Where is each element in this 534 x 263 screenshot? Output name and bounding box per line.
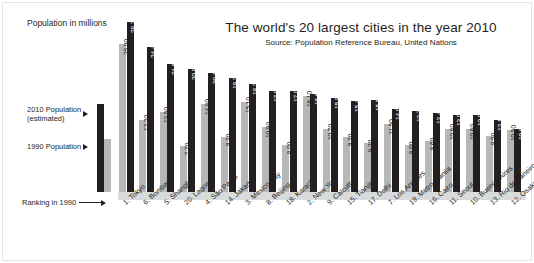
bar-2010: 20.10	[208, 73, 215, 192]
bar-2010: 13.00	[453, 115, 460, 192]
chart-container: The world's 20 largest cities in the yea…	[0, 0, 534, 263]
bar-1990: 25.00	[119, 44, 126, 192]
y-axis-caption: Population in millions	[27, 18, 107, 28]
legend-item-2010: 2010 Population (estimated)	[27, 105, 88, 124]
bar-value-label-2010: 14.00	[395, 104, 402, 120]
bar-value-label-2010: 12.90	[477, 110, 484, 126]
legend-label-2010: 2010 Population (estimated)	[27, 105, 81, 124]
ranking-caption-text: Ranking in 1990	[22, 198, 76, 207]
bar-value-label-2010: 13.70	[416, 106, 423, 122]
bar-2010: 21.50	[167, 64, 174, 192]
arrow-right-icon	[83, 111, 88, 117]
legend-label-1990: 1990 Population	[27, 142, 81, 151]
bar-2010: 28.70	[127, 22, 134, 192]
bar-value-label-2010: 13.40	[436, 107, 443, 123]
legend-swatches	[97, 104, 111, 192]
legend-label-2010-line2: (estimated)	[27, 114, 81, 123]
bar-value-label-2010: 24.40	[150, 42, 157, 58]
bar-value-label-2010: 12.10	[497, 115, 504, 131]
bar-value-label-2010: 16.60	[314, 89, 321, 105]
bar-value-label-2010: 10.60	[518, 124, 525, 140]
bar-value-label-2010: 15.50	[375, 95, 382, 111]
category-axis-labels: 1. Tokyo6. Bombay5. Shanghai20. Lagos4. …	[118, 200, 534, 263]
bar-value-label-2010: 28.70	[130, 17, 137, 33]
ranking-caption: Ranking in 1990	[22, 198, 106, 207]
bar-2010: 24.40	[147, 47, 154, 192]
legend-swatch-2010	[97, 104, 104, 192]
bar-2010: 14.00	[392, 109, 399, 192]
bar-value-label-2010: 17.00	[293, 86, 300, 102]
bar-2010: 20.80	[188, 69, 195, 192]
arrow-right-icon	[101, 200, 106, 206]
bar-value-label-2010: 15.40	[354, 96, 361, 112]
arrow-shaft	[79, 202, 101, 203]
bar-value-label-2010: 13.00	[456, 110, 463, 126]
bar-2010: 12.90	[473, 115, 480, 192]
bar-value-label-2010: 20.10	[212, 68, 219, 84]
bar-value-label-2010: 20.80	[191, 64, 198, 80]
plot-area: 25.0028.7012.2024.4013.5021.507.7020.801…	[118, 14, 526, 192]
bar-value-label-2010: 19.20	[232, 73, 239, 89]
arrow-right-icon	[83, 144, 88, 150]
legend-label-2010-line1: 2010 Population	[27, 105, 81, 114]
bar-2010: 15.50	[371, 100, 378, 192]
legend-swatch-1990	[104, 139, 111, 192]
bar-value-label-2010: 15.90	[334, 93, 341, 109]
bar-value-label-2010: 18.20	[252, 79, 259, 95]
legend-item-1990: 1990 Population	[27, 142, 88, 151]
bar-value-label-2010: 21.50	[171, 59, 178, 75]
bar-value-label-2010: 17.00	[273, 86, 280, 102]
bar-2010: 17.00	[290, 91, 297, 192]
